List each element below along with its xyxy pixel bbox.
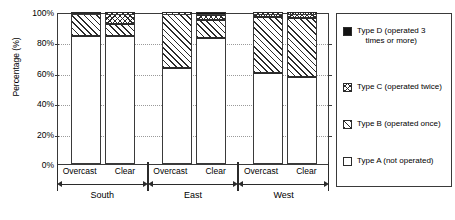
bar-segment-type-b: [253, 17, 283, 73]
plot-area: [57, 13, 329, 165]
bar-west-clear[interactable]: [287, 14, 317, 164]
bar-south-clear[interactable]: [105, 14, 135, 164]
bar-east-clear[interactable]: [196, 14, 226, 164]
group-bracket: [238, 180, 329, 189]
x-axis-condition-label: Clear: [193, 166, 238, 176]
chart-figure: Percentage (%) 0%20%40%60%80%100% Overca…: [0, 0, 455, 220]
y-axis-tick-label: 20%: [20, 130, 54, 140]
x-axis-condition-label: Overcast: [238, 166, 283, 176]
x-axis-group-label: West: [238, 190, 329, 200]
bar-segment-type-c: [196, 15, 226, 20]
tick-mark: [328, 105, 332, 106]
bracket-line: [62, 184, 143, 185]
y-axis-tick-label: 60%: [20, 69, 54, 79]
y-axis-tick-label: 0%: [20, 160, 54, 170]
y-axis-tick-label: 80%: [20, 38, 54, 48]
x-axis-group-label: South: [57, 190, 148, 200]
bar-segment-type-b: [71, 14, 101, 37]
legend-swatch-type-a-icon: [343, 157, 352, 166]
legend-swatch-type-d-icon: [343, 27, 352, 36]
bar-segment-type-b: [196, 20, 226, 38]
bar-segment-type-b: [105, 24, 135, 36]
legend-label: Type D (operated 3times or more): [357, 26, 425, 46]
x-axis-condition-label: Clear: [284, 166, 329, 176]
x-axis-condition-label: Overcast: [148, 166, 193, 176]
tick-mark: [328, 136, 332, 137]
x-axis-group-east: OvercastClearEast: [148, 165, 239, 220]
bar-segment-type-b: [162, 12, 192, 68]
x-axis-group-south: OvercastClearSouth: [57, 165, 148, 220]
x-axis-group-label: East: [148, 190, 239, 200]
y-axis-tick-label: 40%: [20, 99, 54, 109]
legend-label-line2: times or more): [357, 36, 425, 46]
bar-segment-type-a: [105, 36, 135, 164]
bar-segment-type-c: [105, 12, 135, 24]
y-axis-tick-label: 100%: [20, 8, 54, 18]
legend-item-type-a[interactable]: Type A (not operated): [343, 156, 447, 166]
bar-segment-type-a: [253, 73, 283, 164]
x-axis-condition-label: Clear: [102, 166, 147, 176]
tick-mark: [328, 75, 332, 76]
bracket-line: [243, 184, 324, 185]
bar-series-container: [58, 14, 328, 164]
y-axis-tick-labels: 0%20%40%60%80%100%: [18, 0, 54, 220]
bar-segment-type-c: [253, 12, 283, 17]
bar-segment-type-a: [287, 77, 317, 164]
bar-east-overcast[interactable]: [162, 14, 192, 164]
bar-segment-type-a: [162, 68, 192, 164]
tick-mark: [328, 44, 332, 45]
x-axis-group-west: OvercastClearWest: [238, 165, 329, 220]
bracket-arrow-right: [324, 181, 329, 187]
legend-swatch-type-b-icon: [343, 120, 352, 129]
bar-segment-type-c: [287, 12, 317, 18]
x-axis-labels: OvercastClearSouthOvercastClearEastOverc…: [57, 165, 329, 220]
bar-segment-type-a: [71, 36, 101, 164]
bar-south-overcast[interactable]: [71, 14, 101, 164]
legend-item-type-d[interactable]: Type D (operated 3times or more): [343, 26, 447, 46]
x-axis-condition-label: Overcast: [57, 166, 102, 176]
legend-item-type-b[interactable]: Type B (operated once): [343, 119, 447, 129]
bar-segment-type-b: [287, 18, 317, 77]
group-bracket: [57, 180, 148, 189]
bar-west-overcast[interactable]: [253, 14, 283, 164]
group-bracket: [148, 180, 239, 189]
legend-item-type-c[interactable]: Type C (operated twice): [343, 82, 447, 92]
legend-swatch-type-c-icon: [343, 83, 352, 92]
bar-segment-type-d: [196, 12, 226, 15]
legend: Type D (operated 3times or more)Type C (…: [336, 13, 452, 187]
bar-segment-type-a: [196, 38, 226, 164]
bracket-line: [153, 184, 234, 185]
legend-label: Type C (operated twice): [357, 82, 442, 92]
legend-label: Type A (not operated): [357, 156, 434, 166]
bar-segment-type-c: [71, 12, 101, 14]
legend-label: Type B (operated once): [357, 119, 441, 129]
